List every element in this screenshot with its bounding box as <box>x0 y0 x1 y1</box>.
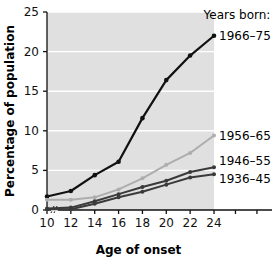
data-point <box>164 183 168 187</box>
data-point <box>188 53 193 58</box>
data-point <box>45 207 49 211</box>
y-tick-label-15: 15 <box>24 84 39 98</box>
plot-area-background <box>47 12 214 210</box>
x-tick-label-10: 10 <box>39 216 54 230</box>
x-tick-label-16: 16 <box>111 216 126 230</box>
data-point <box>93 202 97 206</box>
x-tick-label-20: 20 <box>159 216 174 230</box>
data-point <box>117 187 121 191</box>
chart-figure: 0510152025 1012141618202224 1966–751956–… <box>0 0 280 264</box>
data-point <box>69 207 73 211</box>
data-point <box>69 198 73 202</box>
y-tick-label-20: 20 <box>24 45 39 59</box>
x-tick-label-18: 18 <box>135 216 150 230</box>
data-point <box>188 176 192 180</box>
x-axis-title: Age of onset <box>96 243 182 257</box>
y-tick-label-5: 5 <box>31 163 39 177</box>
data-point <box>212 172 216 176</box>
legend-label-1936-45: 1936–45 <box>219 172 271 186</box>
y-axis-title: Percentage of population <box>3 25 17 197</box>
y-tick-label-10: 10 <box>24 124 39 138</box>
x-tick-label-14: 14 <box>87 216 102 230</box>
y-tick-label-25: 25 <box>24 5 39 19</box>
data-point <box>164 78 169 83</box>
data-point <box>140 185 144 189</box>
legend-label-1946-55: 1946–55 <box>219 154 271 168</box>
x-tick-label-12: 12 <box>63 216 78 230</box>
data-point <box>116 159 121 164</box>
data-point <box>92 173 97 178</box>
data-point <box>212 165 216 169</box>
line-chart-svg: 0510152025 1012141618202224 1966–751956–… <box>0 0 280 264</box>
data-point <box>188 170 192 174</box>
x-axis-ticks: 1012141618202224 <box>39 210 257 230</box>
data-point <box>140 190 144 194</box>
legend: 1966–751956–651946–551936–45 <box>219 29 271 187</box>
data-point <box>140 176 144 180</box>
x-tick-label-24: 24 <box>206 216 221 230</box>
data-point <box>164 163 168 167</box>
legend-title: Years born: <box>203 8 271 22</box>
legend-label-1966-75: 1966–75 <box>219 29 271 43</box>
data-point <box>212 134 216 138</box>
data-point <box>164 179 168 183</box>
y-tick-label-0: 0 <box>31 203 39 217</box>
data-point <box>69 189 74 194</box>
data-point <box>140 116 145 121</box>
data-point <box>45 198 49 202</box>
data-point <box>212 33 217 38</box>
data-point <box>93 195 97 199</box>
x-tick-label-22: 22 <box>183 216 198 230</box>
legend-label-1956-65: 1956–65 <box>219 129 271 143</box>
data-point <box>117 195 121 199</box>
data-point <box>188 151 192 155</box>
y-axis-ticks: 0510152025 <box>24 5 47 217</box>
